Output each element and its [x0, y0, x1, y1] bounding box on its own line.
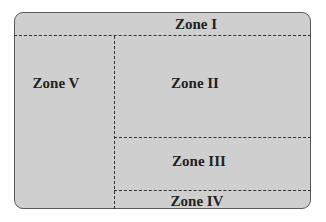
zone-v-label: Zone V	[33, 75, 80, 92]
zone-iii-label: Zone III	[172, 153, 226, 170]
zone-iv-label: Zone IV	[171, 193, 224, 210]
zone-i-divider	[14, 35, 311, 36]
zone-ii-iii-divider	[114, 137, 311, 138]
zone-iii-iv-divider	[114, 190, 311, 191]
zone-ii-label: Zone II	[171, 75, 219, 92]
zone-v-divider	[114, 36, 115, 209]
zone-i-label: Zone I	[175, 16, 217, 33]
zone-diagram-container	[14, 12, 311, 209]
